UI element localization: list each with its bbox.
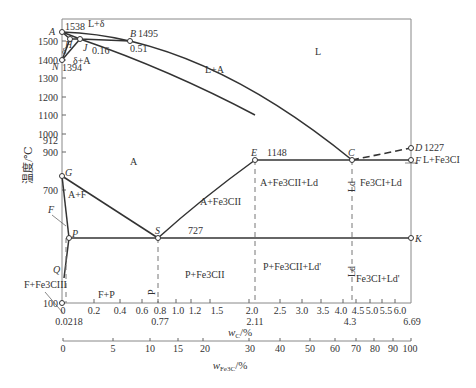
phase-points xyxy=(60,30,414,306)
svg-text:4.5: 4.5 xyxy=(352,305,365,316)
svg-text:20: 20 xyxy=(200,343,210,354)
svg-text:1394: 1394 xyxy=(62,62,82,73)
point-P xyxy=(67,236,72,241)
point-J xyxy=(78,37,83,42)
svg-text:900: 900 xyxy=(43,147,58,158)
svg-text:6.69: 6.69 xyxy=(403,316,421,327)
svg-text:0.6: 0.6 xyxy=(136,305,149,316)
svg-text:80: 80 xyxy=(370,343,380,354)
point-S xyxy=(156,236,161,241)
svg-text:F: F xyxy=(414,155,422,166)
svg-text:1.0: 1.0 xyxy=(172,305,185,316)
svg-text:727: 727 xyxy=(188,225,203,236)
x-axis-c-tick-labels: 0 0.2 0.4 0.6 0.8 1.0 1.2 1.5 2.0 2.5 3.… xyxy=(55,305,421,327)
svg-text:912: 912 xyxy=(43,135,58,146)
svg-text:10: 10 xyxy=(145,343,155,354)
point-D xyxy=(409,146,414,151)
svg-text:0.51: 0.51 xyxy=(130,43,148,54)
svg-text:70: 70 xyxy=(351,343,361,354)
region-labels: L L+A A A+F A+Fe3CII A+Fe3CII+Ld Fe3CI+L… xyxy=(24,46,402,300)
svg-text:90: 90 xyxy=(388,343,398,354)
svg-text:P+Fe3CII: P+Fe3CII xyxy=(185,269,225,280)
svg-text:A+F: A+F xyxy=(68,189,87,200)
svg-text:1.5: 1.5 xyxy=(211,305,224,316)
svg-text:F: F xyxy=(47,204,55,215)
point-E xyxy=(253,158,258,163)
point-labels: A 1538 L+δ H δ J 0.16 δ+A N 1394 B 1495 … xyxy=(47,18,460,275)
svg-text:700: 700 xyxy=(43,185,58,196)
x-axis-c-label: wC/% xyxy=(228,326,252,340)
svg-text:15: 15 xyxy=(173,343,183,354)
svg-text:4.0: 4.0 xyxy=(335,305,348,316)
svg-text:1538: 1538 xyxy=(65,21,85,32)
svg-text:N: N xyxy=(51,61,60,72)
point-C xyxy=(350,158,355,163)
svg-text:6.0: 6.0 xyxy=(394,305,407,316)
svg-text:4.3: 4.3 xyxy=(344,316,357,327)
svg-text:1500: 1500 xyxy=(38,36,58,47)
svg-text:2.5: 2.5 xyxy=(274,305,287,316)
point-K xyxy=(409,236,414,241)
phase-diagram: 1500 1400 1300 1200 1100 1000 912 900 70… xyxy=(0,0,476,388)
svg-text:60: 60 xyxy=(330,343,340,354)
svg-text:F+Fe3CIII: F+Fe3CIII xyxy=(24,279,67,290)
svg-text:P: P xyxy=(71,228,78,239)
svg-text:L: L xyxy=(315,46,321,57)
svg-text:A: A xyxy=(130,156,138,167)
svg-text:A+Fe3CII+Ld: A+Fe3CII+Ld xyxy=(260,177,318,188)
svg-text:0: 0 xyxy=(61,343,66,354)
svg-text:1495: 1495 xyxy=(138,28,158,39)
svg-text:K: K xyxy=(414,233,423,244)
svg-text:δ: δ xyxy=(62,46,66,56)
svg-text:30: 30 xyxy=(245,343,255,354)
svg-text:Fe3CI+Ld: Fe3CI+Ld xyxy=(360,177,402,188)
svg-text:L+δ: L+δ xyxy=(88,18,105,29)
svg-text:D: D xyxy=(414,142,423,153)
svg-text:0.8: 0.8 xyxy=(154,305,167,316)
svg-text:100: 100 xyxy=(43,298,58,309)
svg-text:0.0218: 0.0218 xyxy=(55,316,83,327)
svg-text:0.16: 0.16 xyxy=(92,45,110,56)
x-axis-fe3c-label: wFe3C/% xyxy=(213,359,248,373)
svg-text:100: 100 xyxy=(403,343,418,354)
svg-text:G: G xyxy=(65,167,72,178)
svg-text:3.0: 3.0 xyxy=(296,305,309,316)
svg-text:C: C xyxy=(348,147,355,158)
svg-text:A+Fe3CII: A+Fe3CII xyxy=(200,196,241,207)
y-axis-label: 温度/℃ xyxy=(21,146,34,183)
svg-text:L+A: L+A xyxy=(205,64,225,75)
svg-text:Fe3CI+Ld': Fe3CI+Ld' xyxy=(356,273,400,284)
svg-text:1.2: 1.2 xyxy=(189,305,202,316)
phase-lines xyxy=(62,32,411,278)
svg-text:5: 5 xyxy=(111,343,116,354)
svg-text:1100: 1100 xyxy=(38,110,58,121)
svg-text:B: B xyxy=(130,28,136,39)
svg-text:S: S xyxy=(155,225,160,236)
svg-text:1227: 1227 xyxy=(424,142,444,153)
svg-text:L+Fe3CI: L+Fe3CI xyxy=(423,154,460,165)
svg-text:P+Fe3CII+Ld': P+Fe3CII+Ld' xyxy=(263,261,321,272)
cd-dashed-line xyxy=(352,148,411,160)
svg-text:40: 40 xyxy=(275,343,285,354)
x-axis-c-ticks xyxy=(94,299,395,303)
svg-text:5.5: 5.5 xyxy=(380,305,393,316)
svg-text:Ld: Ld xyxy=(346,181,357,192)
svg-text:0: 0 xyxy=(61,305,66,316)
svg-text:50: 50 xyxy=(305,343,315,354)
point-A xyxy=(60,30,65,35)
svg-text:0.2: 0.2 xyxy=(88,305,101,316)
svg-text:Ld: Ld xyxy=(346,266,357,277)
svg-text:1148: 1148 xyxy=(267,147,287,158)
point-G xyxy=(60,174,65,179)
svg-text:1200: 1200 xyxy=(38,92,58,103)
svg-text:1300: 1300 xyxy=(38,73,58,84)
x-axis-fe3c-tick-labels: 0 5 10 15 20 30 40 50 60 70 80 90 100 xyxy=(61,343,418,354)
svg-text:2.0: 2.0 xyxy=(246,305,259,316)
svg-text:J: J xyxy=(83,42,88,53)
point-F xyxy=(409,158,414,163)
svg-text:P: P xyxy=(146,289,157,295)
svg-text:0.4: 0.4 xyxy=(114,305,127,316)
svg-text:0.77: 0.77 xyxy=(151,316,169,327)
plot-frame xyxy=(62,19,411,303)
svg-text:Q: Q xyxy=(53,264,61,275)
